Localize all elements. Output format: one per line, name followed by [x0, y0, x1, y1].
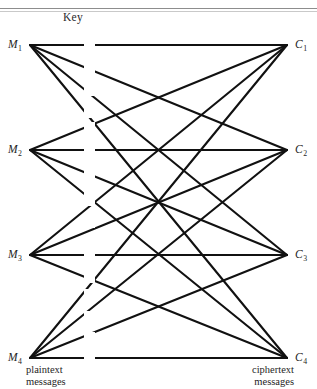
ciphertext-node-c4: C4: [295, 352, 307, 364]
ciphertext-node-c2: C2: [295, 144, 307, 156]
key-label-backdrop: [84, 84, 95, 96]
key-label-backdrop: [84, 39, 95, 51]
plaintext-node-m2-base: M: [8, 143, 18, 155]
plaintext-node-m3-base: M: [8, 248, 18, 260]
ciphertext-caption: ciphertext messages: [222, 364, 294, 387]
key-label-backdrop: [84, 62, 95, 74]
ciphertext-node-c1-base: C: [295, 38, 303, 50]
key-label-backdrop: [84, 234, 95, 246]
key-label-backdrop: [84, 332, 95, 344]
ciphertext-node-c4-base: C: [295, 351, 303, 363]
ciphertext-node-c3-index: 3: [303, 254, 307, 263]
plaintext-caption-line2: messages: [26, 376, 66, 388]
ciphertext-node-c2-base: C: [295, 143, 303, 155]
plaintext-node-m4: M4: [8, 352, 22, 364]
plaintext-caption: plaintext messages: [26, 364, 66, 387]
plaintext-node-m3-index: 3: [18, 254, 22, 263]
plaintext-node-m2-index: 2: [18, 149, 22, 158]
key-label-backdrop: [84, 249, 95, 261]
ciphertext-node-c1: C1: [295, 39, 307, 51]
key-label-backdrop: [84, 311, 95, 323]
ciphertext-caption-line1: ciphertext: [222, 364, 294, 376]
key-label-backdrop: [84, 122, 95, 134]
ciphertext-node-c3: C3: [295, 249, 307, 261]
ciphertext-node-c2-index: 2: [303, 149, 307, 158]
key-label-backdrop: [84, 352, 95, 364]
key-label-backdrop: [84, 144, 95, 156]
key-label-backdrop: [84, 106, 95, 118]
ciphertext-node-c3-base: C: [295, 248, 303, 260]
ciphertext-caption-line2: messages: [222, 376, 294, 388]
key-label-backdrop: [84, 271, 95, 283]
plaintext-caption-line1: plaintext: [26, 364, 66, 376]
cipher-mapping-diagram: Key M1M2M3M4 C1C2C3C4 12342341134124123 …: [0, 0, 317, 389]
key-label-backdrop: [84, 216, 95, 228]
ciphertext-node-c1-index: 1: [303, 44, 307, 53]
plaintext-node-m1-index: 1: [18, 44, 22, 53]
ciphertext-node-c4-index: 4: [303, 357, 307, 366]
key-label-backdrop: [84, 166, 95, 178]
key-label-backdrop: [84, 289, 95, 301]
plaintext-node-m3: M3: [8, 249, 22, 261]
plaintext-node-m1-base: M: [8, 38, 18, 50]
plaintext-node-m4-base: M: [8, 351, 18, 363]
key-label-backdrop: [84, 188, 95, 200]
plaintext-node-m4-index: 4: [18, 357, 22, 366]
plaintext-node-m2: M2: [8, 144, 22, 156]
edge-layer: [0, 0, 317, 389]
plaintext-node-m1: M1: [8, 39, 22, 51]
